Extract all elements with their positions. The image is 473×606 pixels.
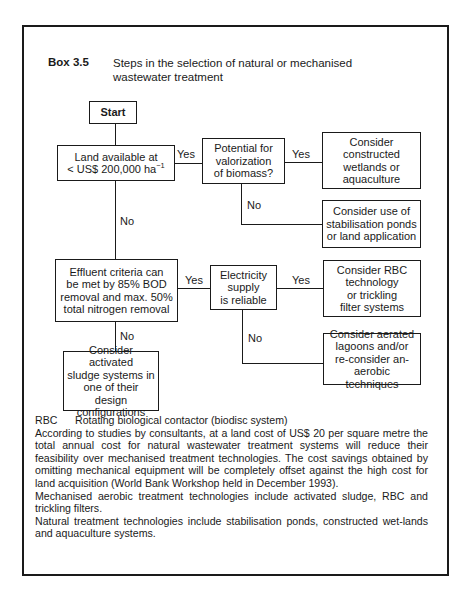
abbreviation-definition: Rotating biological contactor (biodisc s…	[75, 414, 288, 427]
node-potential-valorization: Potential for valorization of biomass?	[202, 138, 285, 184]
edge-label-electricity-no: No	[248, 332, 262, 344]
edge-label-land-yes: Yes	[177, 148, 195, 160]
node-land-text: Land available at < US$ 200,000 ha−1	[67, 151, 165, 176]
line-potential-down	[241, 184, 242, 224]
note-paragraph-natural: Natural treatment technologies include s…	[35, 515, 428, 540]
node-activated-sludge: Consider activated sludge systems in one…	[63, 351, 159, 411]
edge-label-effluent-no: No	[120, 330, 134, 342]
line-land-potential	[175, 163, 202, 164]
note-paragraph-cost: According to studies by consultants, at …	[35, 427, 428, 490]
edge-label-land-no: No	[120, 215, 134, 227]
edge-label-potential-yes: Yes	[292, 148, 310, 160]
node-start: Start	[89, 101, 137, 124]
node-land-superscript: −1	[156, 161, 165, 170]
node-aerated-lagoons: Consider aerated lagoons and/or re-consi…	[323, 333, 421, 385]
edge-label-electricity-yes: Yes	[292, 274, 310, 286]
edge-label-potential-no: No	[247, 199, 261, 211]
line-land-effluent	[115, 181, 116, 259]
line-potential-ponds	[241, 224, 322, 225]
node-rbc-technology: Consider RBC technology or trickling fil…	[323, 260, 421, 317]
edge-label-effluent-yes: Yes	[185, 274, 203, 286]
node-electricity-supply: Electricity supply is reliable	[210, 265, 277, 310]
abbreviation-row: RBC Rotating biological contactor (biodi…	[35, 414, 428, 427]
node-land-available: Land available at < US$ 200,000 ha−1	[57, 145, 175, 181]
line-electricity-down	[242, 310, 243, 363]
line-effluent-electricity	[178, 288, 210, 289]
node-effluent-criteria: Effluent criteria can be met by 85% BOD …	[55, 259, 178, 322]
notes-section: RBC Rotating biological contactor (biodi…	[35, 414, 428, 540]
box-label: Box 3.5	[48, 56, 89, 68]
abbreviation-term: RBC	[35, 414, 75, 427]
box-title: Steps in the selection of natural or mec…	[113, 56, 413, 84]
line-electricity-rbc	[277, 288, 323, 289]
line-potential-wetlands	[285, 162, 322, 163]
node-constructed-wetlands: Consider constructed wetlands or aquacul…	[322, 132, 421, 189]
node-stabilisation-ponds: Consider use of stabilisation ponds or l…	[322, 200, 421, 248]
line-start-land	[115, 124, 116, 145]
line-electricity-aerated	[242, 363, 323, 364]
node-land-label: Land available at < US$ 200,000 ha	[67, 151, 157, 176]
note-paragraph-mechanised: Mechanised aerobic treatment technologie…	[35, 490, 428, 515]
